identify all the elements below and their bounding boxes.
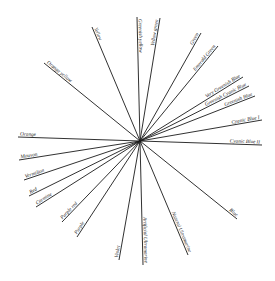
ray-line — [119, 141, 140, 260]
ray-red: Red — [27, 141, 140, 196]
ray-label: Orange yellow — [46, 59, 74, 83]
ray-label: Cyanic Blue II — [230, 137, 261, 144]
ray-line — [18, 137, 140, 141]
ray-carmine: Carmine — [34, 141, 140, 207]
ray-label: Greenish yellow — [138, 19, 145, 53]
ray-purple: Purple — [72, 141, 140, 237]
ray-line — [92, 27, 140, 141]
ray-line — [140, 141, 237, 219]
ray-label: Blue — [228, 207, 240, 218]
ray-line — [140, 141, 143, 265]
ray-line — [36, 141, 140, 207]
ray-label: Mouvon — [19, 151, 38, 160]
ray-cyanic-blue-ii: Cyanic Blue II — [140, 137, 262, 145]
ray-label: Red — [27, 186, 38, 196]
ray-line — [77, 141, 140, 237]
color-ray-diagram: YellowGreenish yellowYellow greenGreenEm… — [0, 0, 275, 281]
ray-blue: Blue — [140, 141, 240, 219]
ray-label: Emerald Green — [191, 43, 217, 73]
ray-label: Natural Ultramarine — [170, 210, 193, 254]
ray-orange: Orange — [18, 131, 140, 141]
ray-line — [140, 77, 243, 141]
ray-mouvon: Mouvon — [19, 141, 140, 160]
ray-label: Purple red — [58, 200, 79, 221]
ray-line — [24, 141, 140, 180]
ray-vermilion: Vermilion — [24, 141, 140, 180]
ray-orange-yellow: Orange yellow — [44, 59, 140, 141]
ray-line — [19, 141, 140, 160]
ray-line — [140, 86, 249, 141]
ray-yellow: Yellow — [92, 26, 140, 141]
ray-line — [29, 141, 140, 196]
ray-greenish-blue: Greenish Blue — [140, 90, 255, 141]
ray-violet: Violet — [113, 141, 140, 260]
ray-label: Orange — [20, 131, 37, 138]
ray-line — [44, 63, 140, 141]
ray-label: Artificial Ultramarine — [142, 216, 149, 264]
ray-label: Vermilion — [24, 167, 45, 179]
